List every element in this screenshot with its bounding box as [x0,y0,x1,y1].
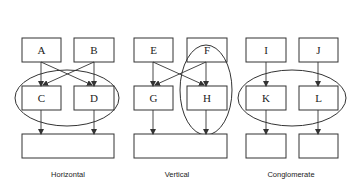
caption-horizontal: Horizontal [51,170,85,179]
label-j: J [316,44,321,56]
bottom-box [134,134,227,158]
bottom-box-right [299,134,338,158]
label-h: H [203,92,211,104]
panel-conglomerate: I J K L Conglomerate [238,38,346,179]
arrow-e-h [153,62,204,85]
label-b: B [90,44,97,56]
label-k: K [262,92,270,104]
label-i: I [264,44,268,56]
arrow-a-d [41,62,92,85]
caption-vertical: Vertical [165,170,190,179]
arrow-b-c [43,62,94,85]
caption-conglomerate: Conglomerate [267,170,314,179]
label-l: L [315,92,322,104]
label-d: D [90,92,98,104]
panel-vertical: E F G H Vertical [134,38,232,179]
panel-horizontal: A B C D Horizontal [15,38,119,179]
bottom-box-left [246,134,286,158]
bottom-box [22,134,114,158]
label-g: G [150,92,158,104]
label-c: C [38,92,45,104]
label-a: A [38,44,46,56]
label-e: E [150,44,157,56]
integration-diagram: A B C D Horizontal E F G H Ve [0,0,362,188]
